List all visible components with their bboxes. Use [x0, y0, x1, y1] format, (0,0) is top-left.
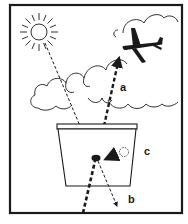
label-b: b: [128, 194, 135, 205]
label-c: c: [144, 146, 150, 157]
sun-ray-dashed: [45, 43, 80, 126]
diagram-canvas: a b c: [0, 0, 188, 224]
airplane-icon: [123, 28, 163, 63]
sun-icon: [20, 13, 58, 51]
diagram-svg: [0, 0, 188, 224]
dark-particle: [92, 155, 101, 161]
label-a: a: [120, 82, 126, 93]
